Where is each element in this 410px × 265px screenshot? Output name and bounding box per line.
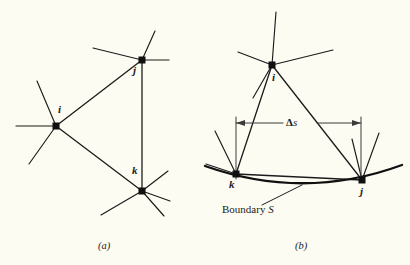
boundary-label: Boundary S: [222, 204, 274, 215]
dimension-extension-lines: [236, 117, 361, 181]
spoke-k-upright: [142, 171, 168, 191]
panel-a-node-i-spokes: [16, 81, 56, 164]
node-dot-i: [53, 123, 60, 130]
panel-a-label-j: j: [133, 65, 136, 76]
panel-a-node-j-spokes: [93, 31, 169, 60]
node-dot-bi: [269, 62, 276, 69]
spoke-k-downleft: [101, 191, 142, 215]
edge-bi-bk: [236, 65, 272, 174]
panel-a-label-k: k: [132, 165, 138, 176]
figure-svg: [0, 0, 410, 265]
figure-container: i j k i k j Δs Boundary S (a) (b): [0, 0, 410, 265]
boundary-label-prefix: Boundary: [222, 203, 268, 215]
edge-i-k: [56, 126, 142, 191]
panel-b-node-i-spokes: [238, 12, 333, 98]
panel-b-label-i: i: [272, 72, 275, 83]
arrowhead-right: [352, 120, 361, 126]
panel-a-caption: (a): [98, 241, 110, 252]
panel-a-node-k-spokes: [101, 171, 170, 216]
spoke-i-downleft: [29, 126, 56, 164]
boundary-label-symbol: S: [268, 203, 274, 215]
panel-b-caption: (b): [295, 241, 307, 252]
delta-symbol: Δ: [286, 116, 293, 128]
arrowhead-left: [236, 120, 245, 126]
spoke-bi-up: [272, 12, 276, 65]
panel-b-group: [205, 12, 402, 205]
node-dot-bj: [359, 177, 366, 184]
boundary-leader-line: [262, 185, 302, 205]
spoke-bi-left: [238, 52, 272, 65]
spoke-j-upright: [142, 31, 155, 60]
spoke-j-upleft: [93, 48, 142, 60]
node-dot-k: [139, 188, 146, 195]
spoke-bi-right: [272, 50, 333, 65]
panel-b-label-j: j: [360, 186, 363, 197]
delta-s-variable: s: [293, 116, 297, 128]
panel-a-label-i: i: [58, 104, 61, 115]
node-dot-bk: [233, 171, 240, 178]
spoke-i-upleft: [37, 81, 56, 126]
delta-s-label: Δs: [286, 117, 297, 128]
node-dot-j: [139, 57, 146, 64]
panel-b-label-k: k: [229, 179, 235, 190]
edge-i-j: [56, 60, 142, 126]
panel-a-group: [16, 31, 170, 216]
panel-a-triangle: [56, 60, 142, 191]
